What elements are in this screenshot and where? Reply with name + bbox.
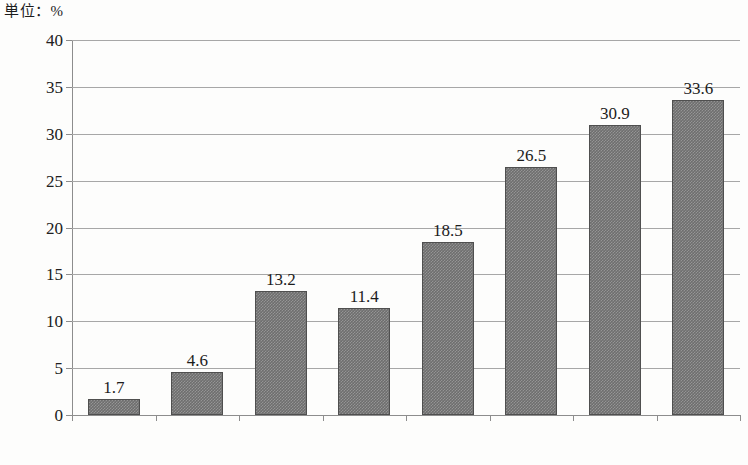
bar-1999: 4.6 [171, 372, 223, 415]
y-axis-label-30: 30 [46, 125, 63, 142]
bar-2004: 30.9 [589, 125, 641, 415]
gridline-40: 40 [72, 40, 740, 41]
bar-2005: 33.6 [672, 100, 724, 415]
bar-value-label-1998: 1.7 [103, 379, 124, 397]
y-axis-label-10: 10 [46, 313, 63, 330]
bar-value-label-2001: 11.4 [350, 288, 379, 306]
x-axis-tick-4 [406, 415, 407, 421]
bar-value-label-2005: 33.6 [683, 80, 713, 98]
y-axis-tick-5 [66, 368, 72, 369]
y-axis-tick-25 [66, 181, 72, 182]
y-axis-tick-30 [66, 134, 72, 135]
y-axis-tick-15 [66, 274, 72, 275]
x-axis-tick-8 [740, 415, 741, 421]
bar-value-label-1999: 4.6 [187, 352, 208, 370]
bar-2003: 26.5 [505, 167, 557, 415]
y-axis-label-40: 40 [46, 32, 63, 49]
plot-area: 0510152025303540 1.74.613.211.418.526.53… [72, 40, 740, 415]
unit-caption: 単位：% [4, 1, 64, 21]
y-axis-tick-10 [66, 321, 72, 322]
y-axis-label-35: 35 [46, 78, 63, 95]
x-axis-tick-3 [323, 415, 324, 421]
x-axis-tick-6 [573, 415, 574, 421]
y-axis-label-15: 15 [46, 266, 63, 283]
bar-value-label-2000: 13.2 [266, 271, 296, 289]
bar-value-label-2002: 18.5 [433, 222, 463, 240]
bar-value-label-2004: 30.9 [600, 105, 630, 123]
y-axis-tick-20 [66, 228, 72, 229]
x-axis-tick-2 [239, 415, 240, 421]
bar-2000: 13.2 [255, 291, 307, 415]
y-axis-tick-35 [66, 87, 72, 88]
bar-value-label-2003: 26.5 [516, 147, 546, 165]
x-axis-tick-7 [657, 415, 658, 421]
x-axis-tick-1 [156, 415, 157, 421]
y-axis-label-25: 25 [46, 172, 63, 189]
bar-2001: 11.4 [338, 308, 390, 415]
gridline-35: 35 [72, 87, 740, 88]
bar-2002: 18.5 [422, 242, 474, 415]
bar-chart-figure: 単位：% 0510152025303540 1.74.613.211.418.5… [0, 0, 748, 465]
y-axis-label-5: 5 [55, 360, 64, 377]
x-axis-tick-5 [490, 415, 491, 421]
y-axis-tick-40 [66, 40, 72, 41]
x-axis-tick-0 [72, 415, 73, 421]
y-axis-label-0: 0 [55, 407, 64, 424]
bar-1998: 1.7 [88, 399, 140, 415]
y-axis-label-20: 20 [46, 219, 63, 236]
